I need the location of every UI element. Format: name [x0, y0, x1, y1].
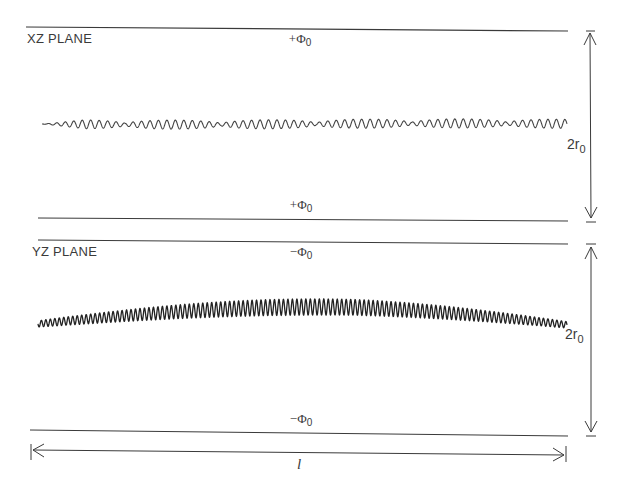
phi-symbol: Φ [296, 31, 306, 46]
xz-aperture-arrow [584, 31, 597, 222]
yz-bottom-electrode [30, 430, 568, 436]
phi-symbol: Φ [297, 197, 307, 212]
xz-aperture-label: 2r0 [567, 136, 586, 155]
aperture-main: 2r [567, 136, 579, 152]
yz-plane-label: YZ PLANE [32, 244, 97, 259]
xz-bottom-electrode [38, 218, 568, 221]
subscript: 0 [579, 143, 585, 155]
xz-plane-label: XZ PLANE [27, 31, 92, 46]
xz-ion-trajectory [42, 119, 567, 129]
length-label: l [297, 456, 301, 473]
phi-symbol: Φ [297, 244, 307, 259]
phi-symbol: Φ [297, 411, 307, 426]
aperture-main: 2r [565, 326, 577, 342]
subscript: 0 [307, 203, 313, 214]
yz-aperture-arrow [585, 244, 597, 436]
quadrupole-trajectory-diagram [0, 0, 626, 484]
subscript: 0 [307, 417, 313, 428]
subscript: 0 [306, 37, 312, 48]
subscript: 0 [307, 250, 313, 261]
xz-top-potential-label: +Φ0 [289, 31, 311, 48]
yz-ion-trajectory [38, 299, 567, 328]
xz-bottom-potential-label: +Φ0 [290, 197, 312, 214]
subscript: 0 [577, 333, 583, 345]
yz-aperture-label: 2r0 [565, 326, 584, 345]
yz-bottom-potential-label: −Φ0 [290, 411, 312, 428]
yz-top-potential-label: −Φ0 [290, 244, 312, 261]
